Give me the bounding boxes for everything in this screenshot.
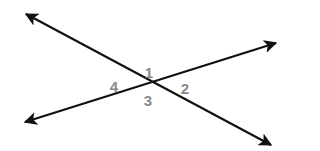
angle-label-1: 1: [145, 65, 153, 80]
line-b: [25, 43, 276, 122]
angle-label-4: 4: [110, 79, 118, 94]
angle-label-3: 3: [144, 93, 152, 108]
angle-label-2: 2: [181, 81, 189, 96]
